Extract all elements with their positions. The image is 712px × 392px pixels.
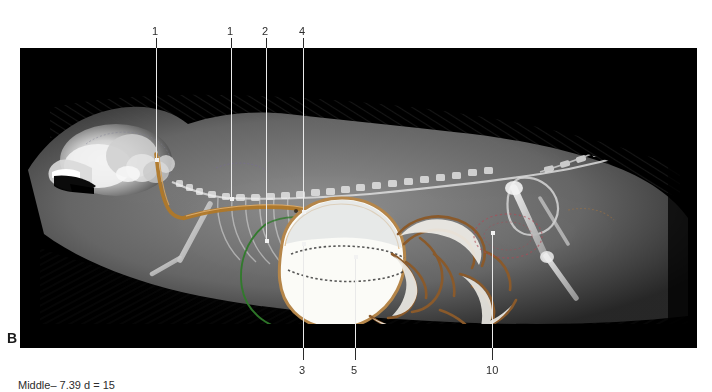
leader-line-1-c1a <box>156 48 157 162</box>
leader-endpoint-c3 <box>302 242 306 246</box>
leader-line-3-c3 <box>303 348 304 360</box>
leader-line-1-c1a <box>156 38 157 48</box>
leader-line-3-c3 <box>303 242 304 348</box>
radiograph-svg <box>20 48 697 348</box>
callout-label-c1b: 1 <box>227 26 233 37</box>
leader-line-2-c2 <box>266 48 267 243</box>
callout-label-c2: 2 <box>262 26 268 37</box>
leader-endpoint-c1b <box>230 197 234 201</box>
callout-label-c1a: 1 <box>152 26 158 37</box>
leader-endpoint-c4 <box>302 210 306 214</box>
leader-endpoint-c10 <box>491 231 495 235</box>
leader-endpoint-c5 <box>354 255 358 259</box>
leader-line-5-c5 <box>355 255 356 348</box>
callout-label-c4: 4 <box>299 26 305 37</box>
leader-endpoint-c2 <box>265 239 269 243</box>
figure-caption: Middle– 7.39 d = 15 <box>18 379 115 391</box>
leader-line-4-c4 <box>303 48 304 214</box>
leader-endpoint-c1a <box>155 158 159 162</box>
radiograph-image <box>20 48 697 348</box>
callout-label-c10: 10 <box>486 365 499 376</box>
radiograph-figure-panel: 11243510 B Middle– 7.39 d = 15 <box>0 0 712 392</box>
leader-line-5-c5 <box>355 348 356 360</box>
leader-line-10-c10 <box>492 348 493 360</box>
leader-line-4-c4 <box>303 38 304 48</box>
callout-label-c3: 3 <box>299 365 305 376</box>
panel-letter-b: B <box>7 331 17 345</box>
callout-label-c5: 5 <box>351 365 357 376</box>
leader-line-1-c1b <box>231 48 232 201</box>
leader-line-2-c2 <box>266 38 267 48</box>
leader-line-10-c10 <box>492 231 493 348</box>
leader-line-1-c1b <box>231 38 232 48</box>
